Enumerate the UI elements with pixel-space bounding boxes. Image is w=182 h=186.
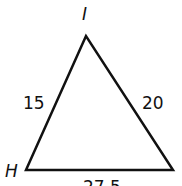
side-label-bottom: 27.5 bbox=[83, 177, 121, 186]
triangle-diagram: I H 15 20 27.5 bbox=[0, 0, 182, 186]
vertex-label-i: I bbox=[82, 4, 87, 24]
side-label-right: 20 bbox=[142, 93, 164, 113]
vertex-label-h: H bbox=[5, 161, 18, 181]
side-label-left: 15 bbox=[23, 93, 45, 113]
